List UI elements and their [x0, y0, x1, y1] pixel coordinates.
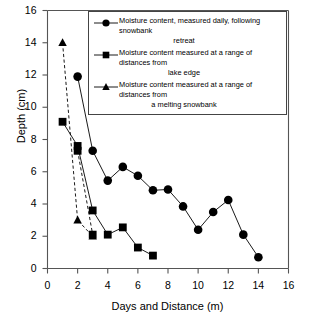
x-tick-label: 8: [157, 279, 179, 291]
data-point-circle: [149, 186, 158, 195]
data-point-square: [59, 118, 67, 126]
legend-entry: Moisture content measured at a range of …: [93, 48, 283, 78]
legend-entry: Moisture content, measured daily, follow…: [93, 16, 283, 46]
data-point-triangle: [73, 216, 81, 224]
legend-label: Moisture content measured at a range of …: [119, 48, 283, 78]
y-tick-label: 6: [15, 165, 37, 177]
x-tick-label: 2: [67, 279, 89, 291]
y-tick-label: 16: [15, 4, 37, 16]
data-point-square: [149, 252, 157, 260]
data-point-square: [89, 231, 97, 239]
legend-label-line1: Moisture content measured at a range of …: [119, 48, 283, 68]
data-point-square: [119, 223, 127, 231]
x-tick-label: 4: [97, 279, 119, 291]
y-tick-label: 12: [15, 68, 37, 80]
x-tick-label: 16: [278, 279, 300, 291]
x-tick-label: 10: [187, 279, 209, 291]
series-4: [74, 147, 97, 239]
data-point-circle: [119, 163, 128, 172]
data-point-circle: [73, 72, 82, 81]
legend-label-line1: Moisture content, measured daily, follow…: [119, 16, 283, 36]
data-point-triangle: [58, 38, 66, 46]
x-tick-label: 12: [217, 279, 239, 291]
data-point-circle: [209, 208, 218, 217]
data-point-circle: [239, 230, 248, 239]
data-point-square: [104, 231, 112, 239]
x-tick-label: 0: [37, 279, 59, 291]
legend-label: Moisture content measured at a range of …: [119, 80, 283, 110]
y-tick-label: 0: [15, 262, 37, 274]
legend-entry: Moisture content measured at a range of …: [93, 80, 283, 110]
data-point-circle: [164, 185, 173, 194]
x-tick-label: 14: [247, 279, 269, 291]
legend-marker-square: [93, 49, 119, 61]
legend-label-line2: retreat: [119, 36, 283, 46]
chart-container: Depth (cm) Days and Distance (m) 0246810…: [0, 0, 310, 321]
legend-label-line1: Moisture content measured at a range of …: [119, 80, 283, 100]
legend-label-line2: lake edge: [119, 68, 283, 78]
data-point-circle: [88, 146, 97, 155]
data-point-circle: [134, 171, 143, 180]
data-point-square: [74, 147, 82, 155]
data-point-square: [134, 244, 142, 252]
y-tick-label: 2: [15, 229, 37, 241]
y-tick-label: 10: [15, 100, 37, 112]
data-point-circle: [224, 196, 233, 205]
data-point-circle: [254, 253, 263, 262]
legend-label: Moisture content, measured daily, follow…: [119, 16, 283, 46]
series-2: [59, 118, 157, 260]
data-point-circle: [194, 226, 203, 235]
x-tick-label: 6: [127, 279, 149, 291]
data-point-circle: [103, 176, 112, 185]
legend-marker-triangle: [93, 81, 119, 93]
legend-marker-circle: [93, 17, 119, 29]
y-tick-label: 4: [15, 197, 37, 209]
y-tick-label: 14: [15, 36, 37, 48]
legend: Moisture content, measured daily, follow…: [88, 11, 287, 115]
data-point-circle: [179, 202, 188, 211]
data-point-square: [89, 207, 97, 215]
y-tick-label: 8: [15, 133, 37, 145]
legend-label-line2: a melting snowbank: [119, 100, 283, 110]
